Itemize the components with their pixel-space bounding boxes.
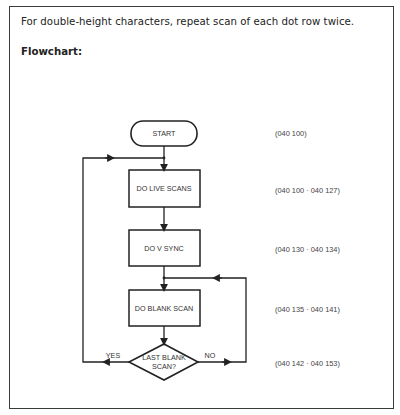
yes-label: YES (106, 351, 121, 360)
blank-scan-label: DO BLANK SCAN (135, 304, 193, 313)
start-label: START (153, 129, 177, 138)
decision-label-line2: SCAN? (152, 362, 176, 371)
decision-address: (040 142 · 040 153) (275, 359, 340, 368)
no-label: NO (205, 351, 216, 360)
live-scans-label: DO LIVE SCANS (136, 184, 191, 193)
decision-label-line1: LAST BLANK (142, 353, 186, 362)
vsync-address: (040 130 · 040 134) (275, 245, 340, 254)
blank-scan-address: (040 135 · 040 141) (275, 305, 340, 314)
flowchart: START DO LIVE SCANS DO V SYNC DO BLANK S… (0, 0, 400, 415)
start-address: (040 100) (275, 129, 307, 138)
vsync-label: DO V SYNC (144, 244, 184, 253)
live-scans-address: (040 100 · 040 127) (275, 186, 340, 195)
